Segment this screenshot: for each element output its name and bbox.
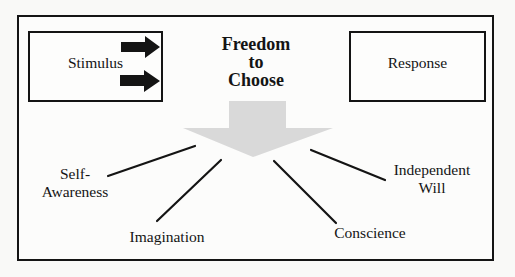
conscience-label: Conscience bbox=[320, 224, 420, 242]
stimulus-arrow-icon bbox=[121, 36, 160, 58]
conscience-connector bbox=[274, 161, 336, 223]
independent-will-label: Independent Will bbox=[380, 161, 484, 197]
stimulus-arrow-icon bbox=[120, 70, 160, 92]
imagination-connector bbox=[157, 160, 221, 221]
choice-down-arrow-icon bbox=[183, 101, 333, 157]
independent-will-line-2: Will bbox=[380, 179, 484, 197]
diagram-graphics bbox=[0, 0, 515, 277]
independent-will-connector bbox=[311, 150, 385, 180]
diagram-canvas: Stimulus Response Freedom to Choose Self… bbox=[0, 0, 515, 277]
self-awareness-label: Self- Awareness bbox=[30, 165, 120, 201]
self-awareness-line-2: Awareness bbox=[30, 183, 120, 201]
imagination-label: Imagination bbox=[118, 228, 216, 246]
self-awareness-line-1: Self- bbox=[30, 165, 120, 183]
independent-will-line-1: Independent bbox=[380, 161, 484, 179]
self-awareness-connector bbox=[108, 146, 195, 176]
